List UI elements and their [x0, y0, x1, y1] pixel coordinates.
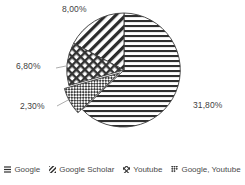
chart-legend: Google Google Scholar	[0, 158, 245, 180]
pie-slices	[64, 13, 180, 127]
legend-item-google-youtube[interactable]: Google, Youtube	[171, 165, 240, 174]
data-label-youtube: 6,80%	[16, 61, 41, 71]
legend-swatch-checker-icon	[171, 166, 178, 173]
data-label-google-scholar: 8,00%	[62, 4, 87, 14]
data-label-google-youtube: 2,30%	[20, 101, 45, 111]
pie-chart-figure: 31,80% 8,00% 6,80% 2,30% Google	[0, 0, 245, 185]
data-label-google: 31,80%	[193, 100, 222, 110]
legend-label-youtube: Youtube	[133, 165, 162, 174]
legend-label-google-youtube: Google, Youtube	[181, 165, 240, 174]
legend-item-youtube[interactable]: Youtube	[123, 165, 162, 174]
pie-plot-area: 31,80% 8,00% 6,80% 2,30%	[0, 0, 245, 152]
legend-swatch-diagonal-lines-icon	[49, 166, 56, 173]
legend-swatch-cross-hatch-icon	[123, 166, 130, 173]
legend-label-google: Google	[14, 165, 40, 174]
legend-swatch-horizontal-lines-icon	[4, 166, 11, 173]
legend-item-google[interactable]: Google	[4, 165, 40, 174]
legend-item-google-scholar[interactable]: Google Scholar	[49, 165, 114, 174]
pie-svg	[0, 0, 245, 152]
legend-label-google-scholar: Google Scholar	[59, 165, 114, 174]
